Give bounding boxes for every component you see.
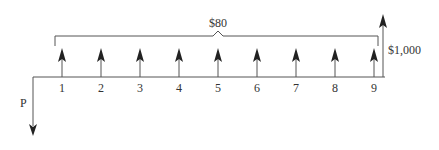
period-labels: 1 2 3 4 5 6 7 8 9: [59, 81, 377, 95]
future-value-arrow: [379, 14, 387, 77]
annuity-bracket: [55, 31, 378, 46]
annuity-label: $80: [209, 16, 227, 30]
svg-text:1: 1: [59, 81, 65, 95]
svg-text:8: 8: [332, 81, 338, 95]
svg-text:4: 4: [176, 81, 182, 95]
svg-text:3: 3: [137, 81, 143, 95]
svg-text:7: 7: [293, 81, 299, 95]
cash-flow-diagram: P $80 $1,000 1 2 3 4 5 6 7: [0, 0, 439, 150]
present-value-arrow: [29, 77, 37, 136]
svg-text:5: 5: [215, 81, 221, 95]
present-value-label: P: [20, 96, 27, 110]
svg-text:9: 9: [371, 81, 377, 95]
svg-text:2: 2: [98, 81, 104, 95]
svg-text:6: 6: [254, 81, 260, 95]
future-value-label: $1,000: [388, 43, 421, 57]
